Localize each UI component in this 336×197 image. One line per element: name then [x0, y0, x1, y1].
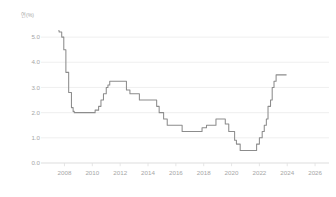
- y-tick-label: 0.0: [18, 160, 40, 166]
- y-tick-label: 5.0: [18, 34, 40, 40]
- y-axis-unit-label: 연(%): [21, 13, 34, 18]
- y-tick-label: 2.0: [18, 109, 40, 115]
- gridlines-group: [41, 37, 329, 163]
- x-tick-label: 2020: [225, 170, 239, 176]
- chart-plot-area: [0, 0, 336, 197]
- y-tick-label: 1.0: [18, 135, 40, 141]
- interest-rate-chart: 연(%) 0.01.02.03.04.05.0 2008201020122014…: [0, 0, 336, 197]
- x-tick-label: 2008: [58, 170, 72, 176]
- y-tick-label: 4.0: [18, 59, 40, 65]
- series-line-policy-rate: [58, 31, 286, 151]
- x-tick-label: 2026: [308, 170, 322, 176]
- x-tick-label: 2016: [169, 170, 183, 176]
- x-tick-label: 2024: [280, 170, 294, 176]
- x-tick-marks-group: [64, 163, 315, 166]
- x-tick-label: 2022: [253, 170, 267, 176]
- y-tick-label: 3.0: [18, 84, 40, 90]
- x-tick-label: 2018: [197, 170, 211, 176]
- x-tick-label: 2012: [113, 170, 127, 176]
- x-tick-label: 2010: [85, 170, 99, 176]
- x-tick-label: 2014: [141, 170, 155, 176]
